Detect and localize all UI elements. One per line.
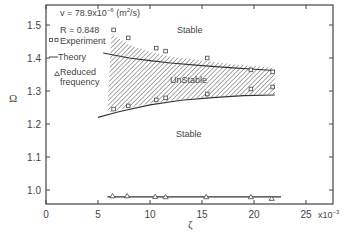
y-axis-label: Ω (9, 92, 17, 104)
region-label-stable-lower: Stable (176, 129, 202, 139)
x-tick-label: 5 (95, 209, 101, 220)
x-tick-label: 25 (300, 209, 312, 220)
region-label-stable-upper: Stable (177, 25, 203, 35)
experiment-marker (154, 46, 158, 50)
y-tick-label: 1.3 (27, 86, 41, 97)
region-label-unstable: UnStable (170, 75, 207, 85)
unstable-region (107, 34, 274, 113)
experiment-marker (154, 98, 158, 102)
x-axis-label: ζ (188, 218, 193, 231)
experiment-marker (112, 28, 116, 32)
y-tick-label: 1.4 (27, 53, 41, 64)
experiment-marker (249, 68, 253, 72)
legend-reduced-label-2: frequency (60, 77, 100, 87)
y-tick-label: 1.0 (27, 185, 41, 196)
experiment-marker (249, 87, 253, 91)
r-annotation: R = 0.848 (60, 25, 99, 35)
y-tick-label: 1.5 (27, 20, 41, 31)
experiment-marker (126, 36, 130, 40)
experiment-marker (112, 107, 116, 111)
experiment-marker (126, 104, 130, 108)
experiment-marker (271, 70, 275, 74)
experiment-marker (205, 92, 209, 96)
x-tick-label: 10 (144, 209, 156, 220)
reduced-frequency-marker (125, 193, 130, 197)
experiment-marker (164, 96, 168, 100)
y-tick-label: 1.1 (27, 152, 41, 163)
legend-triangle-marker (55, 72, 60, 76)
x-tick-label: 15 (196, 209, 208, 220)
experiment-marker (205, 56, 209, 60)
legend-theory-label: Theory (58, 52, 87, 62)
legend-experiment-label: Experiment (60, 36, 106, 46)
experiment-marker (271, 85, 275, 89)
reduced-frequency-marker (110, 193, 115, 197)
y-tick-label: 1.2 (27, 119, 41, 130)
reduced-frequency-marker (153, 194, 158, 198)
x-tick-label: 20 (248, 209, 260, 220)
legend: Experiment Theory Reduced frequency (49, 36, 106, 87)
experiment-marker (164, 49, 168, 53)
legend-experiment-marker-1 (50, 39, 53, 42)
stability-chart: 0510152025 1.01.11.21.31.41.5 v = 78.9x1… (0, 0, 350, 246)
x-axis-multiplier: x10−3 (318, 209, 340, 220)
legend-reduced-label-1: Reduced (60, 67, 96, 77)
legend-experiment-marker-2 (55, 39, 58, 42)
viscosity-annotation: v = 78.9x10−6 (m2/s) (60, 7, 140, 18)
x-tick-label: 0 (43, 209, 49, 220)
